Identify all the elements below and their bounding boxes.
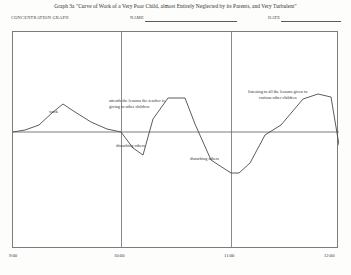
annotation-attends-lessons: attends the lessons the teacher is givin… [109, 98, 165, 109]
annotation-work: work [49, 109, 58, 115]
x-axis-tick-12pm: 12:00 [324, 253, 334, 258]
annotation-listening-lessons: listening to all the lessons given to va… [248, 89, 307, 100]
annotation-attends-line2: giving to other children [109, 104, 165, 110]
x-axis-tick-11am: 11:00 [224, 253, 234, 258]
work-curve-line [13, 94, 339, 173]
chart-frame: work attends the lessons the teacher is … [12, 31, 338, 248]
name-field-rule[interactable] [145, 21, 237, 22]
form-type-label: CONCENTRATION GRAPH [11, 15, 69, 20]
annotation-listening-line2: various other children [248, 95, 307, 101]
x-axis-tick-10am: 10:00 [114, 253, 124, 258]
annotation-attends-line1: attends the lessons the teacher is [109, 98, 165, 104]
name-field-label: NAME [130, 15, 144, 20]
concentration-curve-plot [13, 32, 339, 249]
form-header-row: CONCENTRATION GRAPH NAME DATE [11, 15, 341, 25]
annotation-listening-line1: listening to all the lessons given to [248, 89, 307, 95]
date-field-label: DATE [268, 15, 280, 20]
annotation-disturbing-others-1: disturbing others [116, 143, 145, 149]
annotation-disturbing-others-2: disturbing others [190, 156, 219, 162]
x-axis-tick-9am: 9:00 [9, 253, 17, 258]
date-field-rule[interactable] [281, 21, 341, 22]
page-title: Graph 3a "Curve of Work of a Very Poor C… [0, 3, 351, 10]
